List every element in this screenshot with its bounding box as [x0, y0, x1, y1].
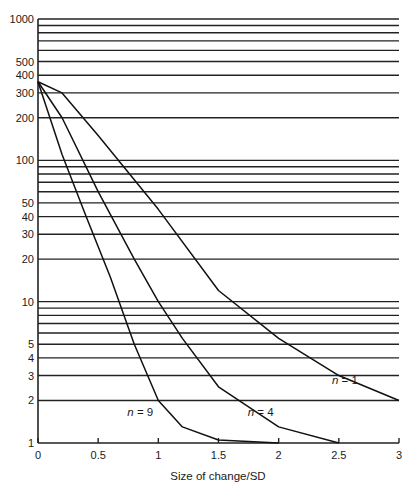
x-tick-label: 0.5 [91, 449, 106, 461]
y-tick-label: 3 [28, 370, 34, 382]
x-tick-label: 3 [396, 449, 402, 461]
y-tick-label: 400 [16, 69, 34, 81]
series-line-n4 [38, 82, 339, 443]
series-line-n9 [38, 82, 279, 443]
y-tick-label: 300 [16, 87, 34, 99]
x-tick-label: 1 [155, 449, 161, 461]
y-tick-label: 200 [16, 112, 34, 124]
x-tick-label: 2.5 [331, 449, 346, 461]
y-axis-tick-labels: 1234510203040501002003004005001000 [10, 13, 34, 449]
series-label: n = 4 [248, 406, 275, 418]
y-tick-label: 2 [28, 394, 34, 406]
series-labels: n = 1n = 4n = 9 [127, 374, 357, 418]
y-tick-label: 100 [16, 154, 34, 166]
y-tick-label: 30 [22, 228, 34, 240]
y-tick-label: 500 [16, 56, 34, 68]
y-tick-label: 5 [28, 338, 34, 350]
x-tick-label: 0 [35, 449, 41, 461]
gridlines [38, 19, 399, 400]
y-tick-label: 40 [22, 211, 34, 223]
series-line-n1 [38, 82, 399, 401]
y-tick-label: 50 [22, 197, 34, 209]
y-tick-label: 1 [28, 437, 34, 449]
y-tick-label: 1000 [10, 13, 34, 25]
y-tick-label: 10 [22, 296, 34, 308]
y-tick-label: 4 [28, 352, 34, 364]
x-tick-label: 2 [276, 449, 282, 461]
series-label: n = 9 [127, 406, 153, 418]
x-axis-title: Size of change/SD [170, 470, 265, 482]
x-tick-label: 1.5 [211, 449, 226, 461]
y-tick-label: 20 [22, 253, 34, 265]
series-curves [38, 82, 399, 443]
x-axis-tick-labels: 00.511.522.53 [35, 449, 402, 461]
series-label: n = 1 [332, 374, 358, 386]
line-chart: 1234510203040501002003004005001000 00.51… [0, 0, 414, 492]
